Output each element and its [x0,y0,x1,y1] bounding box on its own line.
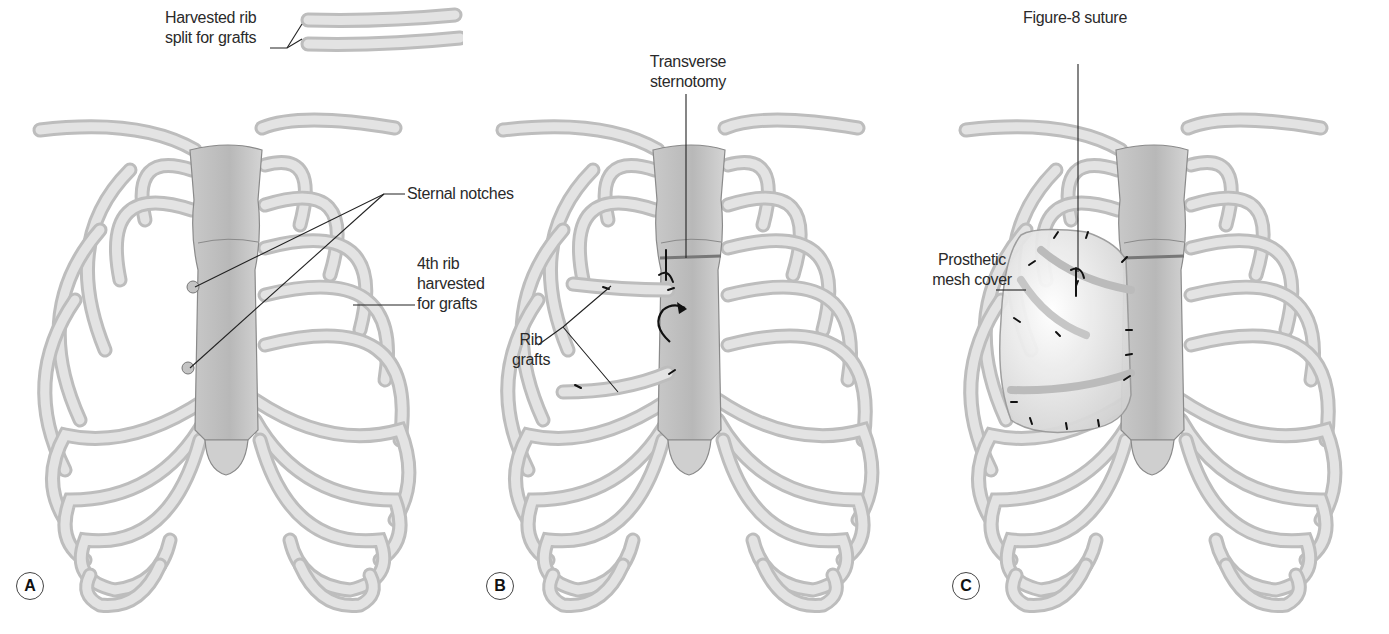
panel-a: Harvested rib split for grafts Sternal n… [0,0,463,634]
rib-cage-illustration-b [463,0,926,634]
panel-c: Figure-8 suture Prosthetic mesh cover C [926,0,1389,634]
panel-letter-b: B [486,572,514,600]
rib-cage-illustration-c [926,0,1389,634]
harvested-rib-graphic [308,15,460,44]
label-rib-grafts: Rib grafts [506,330,556,370]
label-figure8-suture: Figure-8 suture [1023,8,1127,28]
rib-cage-illustration-a [0,0,463,634]
panel-letter-a: A [16,572,44,600]
prosthetic-mesh [1000,230,1131,433]
label-harvested-rib: Harvested rib split for grafts [165,8,256,48]
label-prosthetic-mesh: Prosthetic mesh cover [932,250,1012,290]
panel-b: Transverse sternotomy Rib grafts B [463,0,926,634]
panel-letter-c: C [952,572,980,600]
label-transverse-sternotomy: Transverse sternotomy [633,52,743,92]
